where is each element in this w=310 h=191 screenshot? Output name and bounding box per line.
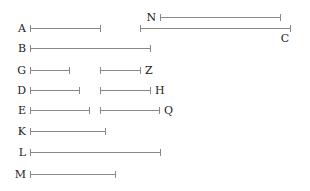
segment-label: C (281, 32, 289, 45)
segment-k: K (18, 125, 106, 138)
segment-e: E (18, 104, 90, 117)
segment-label: A (17, 22, 27, 35)
segment-l: L (19, 146, 161, 159)
segment-label: B (18, 42, 26, 55)
segment-label: M (15, 168, 26, 181)
segment-label: N (146, 11, 156, 24)
segment-label: H (155, 84, 165, 97)
segment-h: H (101, 84, 165, 97)
segment-d: D (17, 84, 79, 97)
segment-b: B (18, 42, 151, 55)
segment-c: C (141, 25, 291, 45)
segment-label: E (18, 104, 26, 117)
segment-label: Z (145, 64, 153, 77)
segment-m: M (15, 168, 116, 181)
segment-label: G (17, 64, 26, 77)
segment-n: N (146, 11, 280, 24)
segment-label: D (17, 84, 26, 97)
segment-g: G (17, 64, 69, 77)
segment-label: K (18, 125, 27, 138)
segment-label: L (19, 146, 27, 159)
interval-diagram: ANCBGZDHEQKLM (0, 0, 310, 191)
segment-label: Q (164, 104, 173, 117)
segment-z: Z (101, 64, 154, 77)
segment-a: A (17, 22, 100, 35)
segment-q: Q (101, 104, 174, 117)
